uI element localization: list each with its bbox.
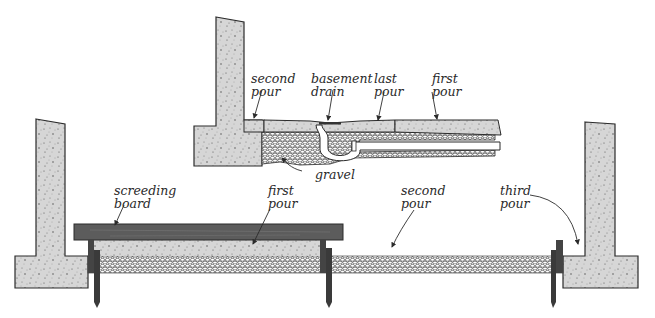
label-gravel: gravel <box>315 168 355 181</box>
stake-left <box>94 250 100 308</box>
first-pour-slab <box>93 240 321 256</box>
label-main-second-pour: second pour <box>401 184 445 210</box>
form-board-left <box>88 240 94 273</box>
basement-slab-diagram <box>0 0 655 318</box>
left-foundation-wall <box>15 119 88 288</box>
label-main-first-pour: first pour <box>268 184 298 210</box>
label-main-third-pour: third pour <box>500 184 531 210</box>
label-basement-drain: basement drain <box>311 72 373 98</box>
right-foundation-wall <box>563 122 638 288</box>
inset-first-pour <box>395 120 501 135</box>
stake-right <box>551 250 556 308</box>
label-inset-first-pour: first pour <box>432 72 462 98</box>
label-inset-last-pour: last pour <box>374 72 404 98</box>
inset-second-pour <box>244 120 264 132</box>
label-inset-second-pour: second pour <box>251 72 295 98</box>
stake-middle <box>326 248 332 308</box>
form-board-middle <box>320 240 326 273</box>
label-screeding-board: screeding board <box>114 184 176 210</box>
form-board-right <box>556 240 563 273</box>
drain-grate-icon <box>319 122 341 125</box>
inset-last-pour <box>264 120 395 132</box>
